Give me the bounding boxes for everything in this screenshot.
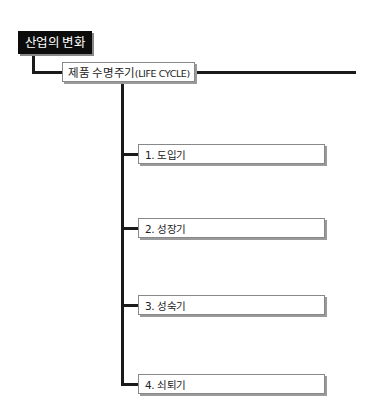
root-connector-horizontal — [32, 71, 63, 74]
stage-label: 3. 성숙기 — [145, 300, 186, 312]
branch-4 — [121, 383, 139, 386]
stage-label: 1. 도입기 — [145, 149, 186, 161]
stage-label: 4. 쇠퇴기 — [145, 379, 186, 391]
main-node: 제품 수명주기(LIFE CYCLE) — [62, 62, 195, 82]
main-node-label: 제품 수명주기 — [68, 66, 135, 80]
branch-2 — [121, 227, 139, 230]
root-node: 산업의 변화 — [18, 31, 92, 54]
stage-node-introduction: 1. 도입기 — [138, 144, 325, 164]
root-node-label: 산업의 변화 — [25, 35, 86, 50]
main-node-sublabel: (LIFE CYCLE) — [135, 68, 190, 79]
branch-3 — [121, 304, 139, 307]
stage-node-decline: 4. 쇠퇴기 — [138, 374, 325, 394]
branch-1 — [121, 153, 139, 156]
stage-label: 2. 성장기 — [145, 223, 186, 235]
trunk-line — [121, 83, 124, 386]
main-connector-right — [196, 71, 356, 74]
stage-node-growth: 2. 성장기 — [138, 218, 325, 238]
stage-node-maturity: 3. 성숙기 — [138, 295, 325, 315]
